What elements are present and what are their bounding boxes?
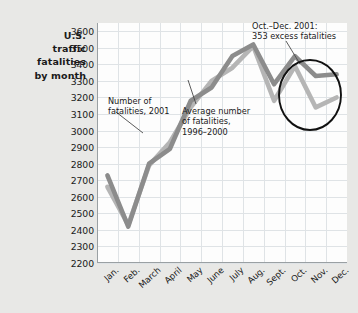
- x-axis-tick-jan: Jan.: [103, 265, 122, 283]
- y-axis-tick-2300: 2300: [56, 241, 94, 252]
- x-axis: Jan.Feb.MarchAprilMayJuneJulyAug.Sept.Oc…: [97, 263, 347, 313]
- y-axis-tick-2400: 2400: [56, 224, 94, 235]
- y-axis-tick-3100: 3100: [56, 109, 94, 120]
- y-axis-tick-3000: 3000: [56, 125, 94, 136]
- data-lines: [97, 23, 347, 263]
- y-axis-tick-3300: 3300: [56, 75, 94, 86]
- x-axis-tick-march: March: [137, 265, 163, 290]
- y-axis-tick-2500: 2500: [56, 208, 94, 219]
- y-axis-tick-2800: 2800: [56, 158, 94, 169]
- annotation-series-average-line-1: Average number: [182, 106, 250, 116]
- y-axis-tick-2900: 2900: [56, 142, 94, 153]
- y-axis-tick-2200: 2200: [56, 258, 94, 269]
- annotation-excess-line-1: Oct.–Dec. 2001:: [252, 21, 336, 31]
- annotation-series-2001-line-2: fatalities, 2001: [108, 106, 170, 116]
- annotation-excess-callout: Oct.–Dec. 2001: 353 excess fatalities: [252, 21, 336, 42]
- annotation-series-average: Average number of fatalities, 1996–2000: [182, 106, 250, 137]
- annotation-series-2001: Number of fatalities, 2001: [108, 96, 170, 117]
- annotation-series-2001-line-1: Number of: [108, 96, 170, 106]
- x-axis-tick-nov: Nov.: [309, 265, 330, 285]
- y-axis-tick-3500: 3500: [56, 42, 94, 53]
- x-axis-tick-dec: Dec.: [329, 265, 350, 285]
- annotation-excess-line-2: 353 excess fatalities: [252, 31, 336, 41]
- y-axis-tick-3600: 3600: [56, 26, 94, 37]
- x-axis-tick-aug: Aug.: [246, 265, 267, 285]
- y-axis-tick-2700: 2700: [56, 175, 94, 186]
- x-axis-tick-oct: Oct.: [289, 265, 309, 284]
- annotation-series-average-line-2: of fatalities,: [182, 116, 250, 126]
- plot-area: [97, 23, 347, 263]
- x-axis-tick-june: June: [205, 265, 226, 285]
- x-axis-tick-sept: Sept.: [264, 265, 287, 287]
- y-axis: 3600350034003300320031003000290028002700…: [56, 0, 94, 313]
- annotation-series-average-line-3: 1996–2000: [182, 127, 250, 137]
- x-axis-tick-april: April: [162, 265, 183, 286]
- x-axis-tick-may: May: [185, 265, 205, 284]
- chart-figure: U.S. traffic fatalities by month 3600350…: [0, 0, 358, 313]
- y-axis-tick-3200: 3200: [56, 92, 94, 103]
- x-axis-tick-july: July: [228, 265, 246, 283]
- y-axis-tick-2600: 2600: [56, 191, 94, 202]
- y-axis-tick-3400: 3400: [56, 59, 94, 70]
